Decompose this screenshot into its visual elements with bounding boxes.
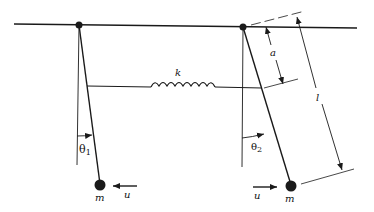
dimension-l-arrow-down bbox=[322, 104, 342, 170]
dimension-l-label: l bbox=[316, 92, 319, 103]
pivot-1 bbox=[76, 22, 83, 29]
rod-2 bbox=[243, 27, 291, 185]
dimension-a-arrow-down bbox=[276, 60, 283, 84]
force1-label: u bbox=[124, 189, 130, 200]
coupled-pendulum-diagram: θ1 m u k θ2 m u bbox=[0, 0, 374, 212]
dimension-a-arrow-up bbox=[266, 27, 271, 45]
spring-wire-left bbox=[87, 86, 151, 87]
dimension-a-extension-bottom bbox=[264, 79, 298, 88]
mass2-label: m bbox=[285, 193, 294, 204]
spring-coil bbox=[151, 83, 215, 88]
theta2-label: θ2 bbox=[251, 141, 262, 154]
pendulum-2: θ2 m u a l bbox=[240, 11, 355, 204]
spring-label: k bbox=[175, 67, 181, 78]
rod-1 bbox=[79, 25, 100, 184]
mass-1 bbox=[95, 180, 106, 191]
theta2-arc bbox=[242, 134, 264, 138]
pivot-2 bbox=[240, 24, 247, 31]
spring: k bbox=[87, 67, 262, 88]
dimension-l-extension-bottom bbox=[301, 169, 354, 184]
theta1-arc bbox=[77, 135, 92, 136]
spring-wire-right bbox=[215, 87, 262, 88]
theta1-label: θ1 bbox=[79, 143, 91, 157]
mass-2 bbox=[286, 181, 297, 192]
ceiling-line bbox=[14, 24, 357, 28]
vertical-reference-2 bbox=[242, 27, 243, 167]
pendulum-1: θ1 m u bbox=[76, 22, 138, 204]
force2-label: u bbox=[254, 190, 260, 201]
dimension-a-label: a bbox=[270, 47, 276, 58]
mass1-label: m bbox=[95, 192, 104, 203]
